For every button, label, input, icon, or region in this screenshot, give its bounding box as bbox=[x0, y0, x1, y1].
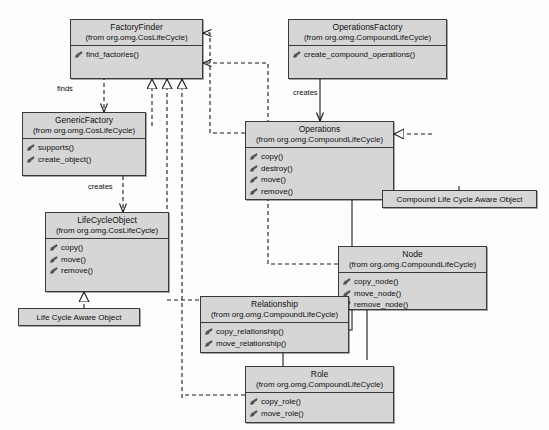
operations-compartment: find_factories() bbox=[71, 46, 202, 64]
operations-compartment: copy_node() move_node() remove_node() bbox=[339, 273, 486, 314]
operation-row: remove() bbox=[250, 186, 391, 198]
method-icon bbox=[27, 156, 35, 163]
operation-label: copy() bbox=[61, 242, 83, 254]
class-package: (from org.omg.CompoundLifeCycle) bbox=[203, 310, 346, 319]
class-package: (from org.omg.CompoundLifeCycle) bbox=[248, 135, 391, 144]
note-text: Compound Life Cycle Aware Object bbox=[396, 195, 522, 204]
operation-label: find_factories() bbox=[86, 49, 139, 61]
operation-row: find_factories() bbox=[75, 49, 200, 61]
note-text: Life Cycle Aware Object bbox=[37, 313, 122, 322]
class-name: GenericFactory bbox=[25, 116, 143, 126]
operations-compartment: copy() move() remove() bbox=[46, 239, 168, 280]
operation-row: move_role() bbox=[250, 408, 391, 420]
operation-label: remove() bbox=[261, 186, 293, 198]
class-header: Role (from org.omg.CompoundLifeCycle) bbox=[246, 367, 393, 393]
class-header: FactoryFinder (from org.omg.CosLifeCycle… bbox=[71, 20, 202, 46]
class-header: GenericFactory (from org.omg.CosLifeCycl… bbox=[23, 113, 145, 139]
method-icon bbox=[205, 340, 213, 347]
operation-row: create_compound_operations() bbox=[293, 49, 444, 61]
operation-row: copy() bbox=[50, 242, 166, 254]
class-header: Relationship (from org.omg.CompoundLifeC… bbox=[201, 297, 348, 323]
method-icon bbox=[75, 51, 83, 58]
class-header: OperationsFactory (from org.omg.Compound… bbox=[289, 20, 446, 46]
operation-row: move_node() bbox=[343, 288, 484, 300]
operation-label: move_relationship() bbox=[216, 338, 286, 350]
operation-label: destroy() bbox=[261, 163, 293, 175]
class-box-lifecycleobject[interactable]: LifeCycleObject (from org.omg.CosLifeCyc… bbox=[45, 212, 169, 292]
operation-row: copy_node() bbox=[343, 276, 484, 288]
method-icon bbox=[250, 153, 258, 160]
class-name: FactoryFinder bbox=[73, 23, 200, 33]
class-name: Operations bbox=[248, 125, 391, 135]
operation-row: supports() bbox=[27, 142, 143, 154]
operation-label: move_role() bbox=[261, 408, 304, 420]
class-package: (from org.omg.CosLifeCycle) bbox=[73, 33, 200, 42]
method-icon bbox=[250, 176, 258, 183]
class-package: (from org.omg.CompoundLifeCycle) bbox=[248, 380, 391, 389]
operations-compartment: copy_role() move_role() bbox=[246, 393, 393, 422]
edge-label-creates-right: creates bbox=[293, 88, 318, 97]
class-package: (from org.omg.CompoundLifeCycle) bbox=[341, 260, 484, 269]
class-name: LifeCycleObject bbox=[48, 216, 166, 226]
method-icon bbox=[205, 328, 213, 335]
method-icon bbox=[250, 410, 258, 417]
method-icon bbox=[250, 188, 258, 195]
class-package: (from org.omg.CosLifeCycle) bbox=[25, 126, 143, 135]
class-header: LifeCycleObject (from org.omg.CosLifeCyc… bbox=[46, 213, 168, 239]
operation-label: create_compound_operations() bbox=[304, 49, 415, 61]
class-package: (from org.omg.CosLifeCycle) bbox=[48, 226, 166, 235]
operation-label: create_object() bbox=[38, 154, 91, 166]
class-name: Role bbox=[248, 370, 391, 380]
class-name: OperationsFactory bbox=[291, 23, 444, 33]
note-compound-life-cycle-aware-object[interactable]: Compound Life Cycle Aware Object bbox=[382, 190, 537, 208]
operation-label: remove() bbox=[61, 265, 93, 277]
method-icon bbox=[27, 144, 35, 151]
method-icon bbox=[50, 267, 58, 274]
operation-row: copy_role() bbox=[250, 396, 391, 408]
operation-row: copy() bbox=[250, 151, 391, 163]
class-name: Node bbox=[341, 250, 484, 260]
operation-label: move_node() bbox=[354, 288, 401, 300]
operation-label: supports() bbox=[38, 142, 74, 154]
class-box-relationship[interactable]: Relationship (from org.omg.CompoundLifeC… bbox=[200, 296, 349, 353]
class-header: Operations (from org.omg.CompoundLifeCyc… bbox=[246, 122, 393, 148]
method-icon bbox=[50, 256, 58, 263]
class-box-role[interactable]: Role (from org.omg.CompoundLifeCycle) co… bbox=[245, 366, 394, 423]
operation-row: copy_relationship() bbox=[205, 326, 346, 338]
method-icon bbox=[50, 244, 58, 251]
operations-compartment: copy_relationship() move_relationship() bbox=[201, 323, 348, 352]
operation-row: create_object() bbox=[27, 154, 143, 166]
operations-compartment: supports() create_object() bbox=[23, 139, 145, 168]
method-icon bbox=[293, 51, 301, 58]
operation-row: move() bbox=[250, 174, 391, 186]
operation-label: copy_role() bbox=[261, 396, 301, 408]
operation-row: remove() bbox=[50, 265, 166, 277]
operation-label: copy_relationship() bbox=[216, 326, 284, 338]
class-name: Relationship bbox=[203, 300, 346, 310]
method-icon bbox=[343, 278, 351, 285]
operation-row: destroy() bbox=[250, 163, 391, 175]
note-life-cycle-aware-object[interactable]: Life Cycle Aware Object bbox=[18, 308, 140, 326]
operation-label: move() bbox=[61, 254, 86, 266]
class-package: (from org.omg.CompoundLifeCycle) bbox=[291, 33, 444, 42]
operation-row: move() bbox=[50, 254, 166, 266]
class-box-operationsfactory[interactable]: OperationsFactory (from org.omg.Compound… bbox=[288, 19, 447, 79]
operations-compartment: copy() destroy() move() remove() bbox=[246, 148, 393, 200]
method-icon bbox=[250, 165, 258, 172]
edge-label-creates-left: creates bbox=[88, 182, 113, 191]
class-box-factoryfinder[interactable]: FactoryFinder (from org.omg.CosLifeCycle… bbox=[70, 19, 203, 79]
operation-label: copy_node() bbox=[354, 276, 398, 288]
edge-label-finds: finds bbox=[57, 84, 73, 93]
operation-row: move_relationship() bbox=[205, 338, 346, 350]
operation-label: copy() bbox=[261, 151, 283, 163]
class-box-node[interactable]: Node (from org.omg.CompoundLifeCycle) co… bbox=[338, 246, 487, 310]
operation-label: move() bbox=[261, 174, 286, 186]
method-icon bbox=[250, 398, 258, 405]
operation-row: remove_node() bbox=[343, 299, 484, 311]
operation-label: remove_node() bbox=[354, 299, 408, 311]
class-header: Node (from org.omg.CompoundLifeCycle) bbox=[339, 247, 486, 273]
operations-compartment: create_compound_operations() bbox=[289, 46, 446, 64]
class-box-genericfactory[interactable]: GenericFactory (from org.omg.CosLifeCycl… bbox=[22, 112, 146, 176]
diagram-canvas: FactoryFinder (from org.omg.CosLifeCycle… bbox=[0, 0, 549, 430]
class-box-operations[interactable]: Operations (from org.omg.CompoundLifeCyc… bbox=[245, 121, 394, 200]
